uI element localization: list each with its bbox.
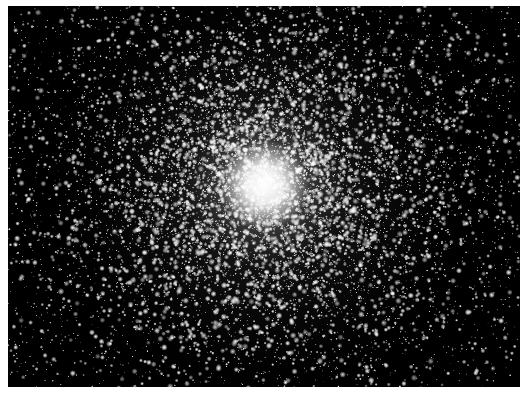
star-field	[8, 6, 520, 387]
star-cluster-photo	[8, 6, 520, 387]
